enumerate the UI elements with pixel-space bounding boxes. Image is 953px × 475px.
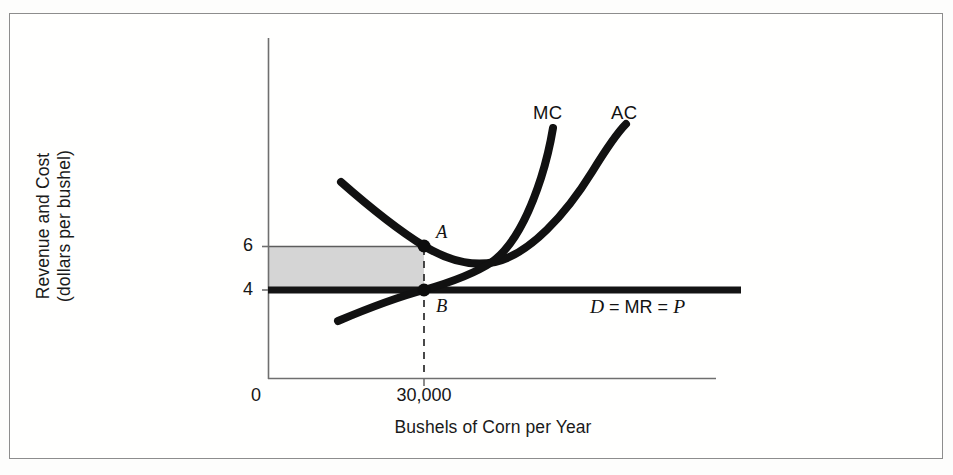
ac-curve-label: AC [611,102,638,124]
point-b-marker [418,284,431,297]
x-axis-title: Bushels of Corn per Year [268,417,718,438]
y-tick-label-6: 6 [243,235,253,256]
ac-curve [341,124,626,264]
demand-label-eq2: = [653,297,674,317]
demand-line-label: D=MR=P [590,296,685,318]
y-tick-label-4: 4 [243,279,253,300]
demand-label-mr: MR [625,297,653,317]
demand-label-d: D [590,296,604,317]
y-axis-title-line2: (dollars per bushel) [54,106,75,346]
origin-label: 0 [251,385,261,406]
point-b-label: B [436,296,447,317]
loss-area-rect [268,246,424,290]
mc-curve-label: MC [533,102,563,124]
x-tick-label-30000: 30,000 [383,385,465,406]
point-a-marker [418,240,431,253]
demand-label-eq1: = [604,297,625,317]
chart-canvas [0,0,953,475]
figure-container: Revenue and Cost (dollars per bushel) Bu… [0,0,953,475]
point-a-label: A [436,222,447,243]
y-axis-title-line1: Revenue and Cost [33,106,54,346]
demand-label-p: P [673,296,685,317]
y-axis-title: Revenue and Cost (dollars per bushel) [33,106,75,346]
